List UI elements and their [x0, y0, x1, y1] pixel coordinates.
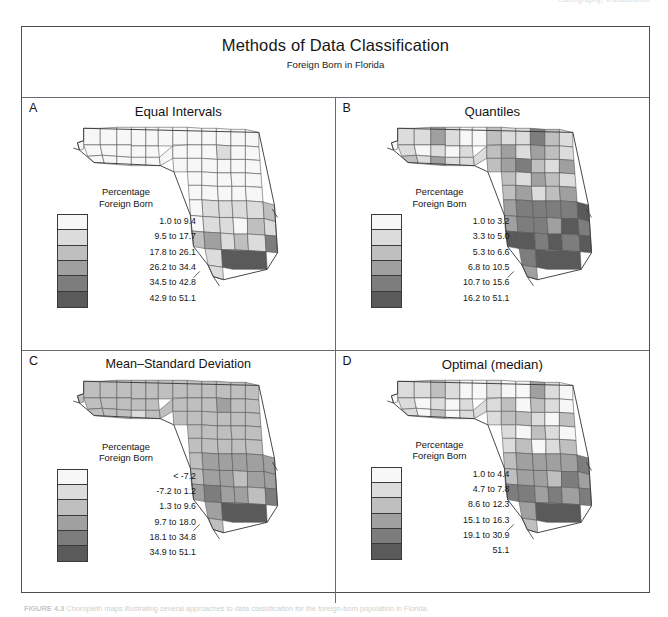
county-polygon: [233, 470, 248, 487]
legend-title-line2: Foreign Born: [384, 450, 496, 462]
legend-class-label: 4.7 to 7.8: [406, 482, 514, 497]
county-polygon: [188, 172, 203, 185]
county-polygon: [234, 234, 249, 251]
legend-swatch: [372, 498, 401, 513]
county-polygon: [202, 185, 219, 201]
legend-class-label: 9.5 to 17.7: [92, 229, 200, 244]
county-polygon: [220, 217, 235, 234]
county-polygon: [218, 425, 233, 438]
county-polygon: [246, 146, 261, 161]
legend-class-label: 5.3 to 6.6: [406, 245, 514, 260]
legend-class-label: 34.5 to 42.8: [92, 275, 200, 290]
county-polygon: [502, 411, 517, 424]
county-polygon: [474, 146, 487, 166]
county-polygon: [248, 471, 266, 488]
legend-swatch-column: [371, 214, 402, 308]
legend-swatch-column: [57, 469, 88, 563]
county-polygon: [248, 234, 267, 252]
county-polygon: [246, 398, 261, 413]
county-polygon: [232, 186, 247, 201]
county-polygon: [248, 219, 266, 236]
legend-title-line1: Percentage: [70, 441, 182, 453]
county-polygon: [431, 380, 446, 398]
county-polygon: [516, 145, 532, 160]
county-polygon: [218, 439, 233, 454]
county-polygon: [414, 380, 431, 398]
legend-label-column: 1.0 to 9.49.5 to 17.717.8 to 26.126.2 to…: [92, 214, 200, 306]
county-polygon: [160, 146, 173, 166]
county-polygon: [173, 411, 188, 424]
county-polygon: [231, 146, 246, 159]
county-polygon: [202, 424, 218, 439]
county-polygon: [246, 173, 263, 188]
legend-body: < -7.2-7.2 to 1.21.3 to 9.69.7 to 18.018…: [52, 469, 204, 561]
county-polygon: [173, 127, 188, 145]
county-polygon: [516, 438, 533, 454]
legend-swatch: [372, 261, 401, 276]
county-polygon: [532, 412, 545, 425]
county-polygon: [146, 410, 161, 418]
panel-d: DOptimal (median)PercentageForeign Born1…: [336, 351, 650, 604]
county-polygon: [562, 234, 581, 252]
county-polygon: [231, 159, 246, 172]
county-polygon: [232, 439, 247, 454]
county-polygon: [100, 145, 117, 156]
county-polygon: [533, 453, 548, 470]
panel-b: BQuantilesPercentageForeign Born1.0 to 3…: [336, 98, 650, 351]
county-polygon: [560, 425, 577, 440]
figure-frame: Methods of Data Classification Foreign B…: [21, 26, 650, 593]
county-polygon: [217, 128, 232, 146]
map-legend: PercentageForeign Born1.0 to 9.49.5 to 1…: [52, 186, 204, 306]
county-polygon: [516, 452, 534, 470]
legend-swatch: [58, 500, 87, 515]
county-polygon: [517, 216, 535, 233]
county-polygon: [219, 453, 234, 470]
county-polygon: [560, 159, 576, 174]
county-polygon: [220, 470, 235, 487]
county-polygon: [84, 145, 103, 156]
legend-body: 1.0 to 9.49.5 to 17.717.8 to 26.126.2 to…: [52, 214, 204, 306]
county-polygon: [146, 157, 161, 165]
legend-label-column: < -7.2-7.2 to 1.21.3 to 9.69.7 to 18.018…: [92, 469, 200, 561]
county-polygon: [536, 502, 582, 522]
county-polygon: [532, 439, 547, 454]
county-polygon: [173, 158, 188, 171]
legend-swatch: [58, 292, 87, 307]
legend-class-label: 9.7 to 18.0: [92, 515, 200, 530]
county-polygon: [204, 485, 222, 503]
county-polygon: [460, 398, 473, 409]
county-polygon: [532, 186, 547, 201]
county-polygon: [562, 487, 581, 505]
county-polygon: [84, 128, 101, 145]
county-polygon: [531, 381, 546, 399]
county-polygon: [518, 485, 536, 503]
county-polygon: [132, 146, 147, 157]
county-polygon: [117, 145, 132, 157]
county-polygon: [579, 488, 591, 506]
county-polygon: [532, 159, 545, 172]
county-polygon: [246, 425, 263, 440]
county-polygon: [218, 412, 231, 425]
legend-swatch: [372, 544, 401, 559]
county-polygon: [560, 412, 576, 427]
legend-class-label: 42.9 to 51.1: [92, 291, 200, 306]
legend-swatch: [58, 246, 87, 261]
legend-swatch: [58, 470, 87, 485]
county-polygon: [202, 158, 218, 173]
county-polygon: [578, 219, 590, 237]
county-polygon: [545, 412, 560, 425]
county-polygon: [204, 232, 222, 250]
county-polygon: [173, 397, 188, 410]
legend-class-label: 16.2 to 51.1: [406, 291, 514, 306]
county-polygon: [431, 397, 446, 409]
county-polygon: [398, 145, 417, 156]
county-polygon: [502, 158, 517, 171]
legend-class-label: 51.1: [406, 543, 514, 558]
legend-class-label: 10.7 to 15.6: [406, 275, 514, 290]
county-polygon: [535, 233, 550, 250]
county-polygon: [217, 397, 232, 412]
county-polygon: [218, 173, 233, 186]
county-polygon: [446, 398, 461, 409]
legend-swatch: [58, 546, 87, 561]
county-polygon: [203, 469, 221, 486]
